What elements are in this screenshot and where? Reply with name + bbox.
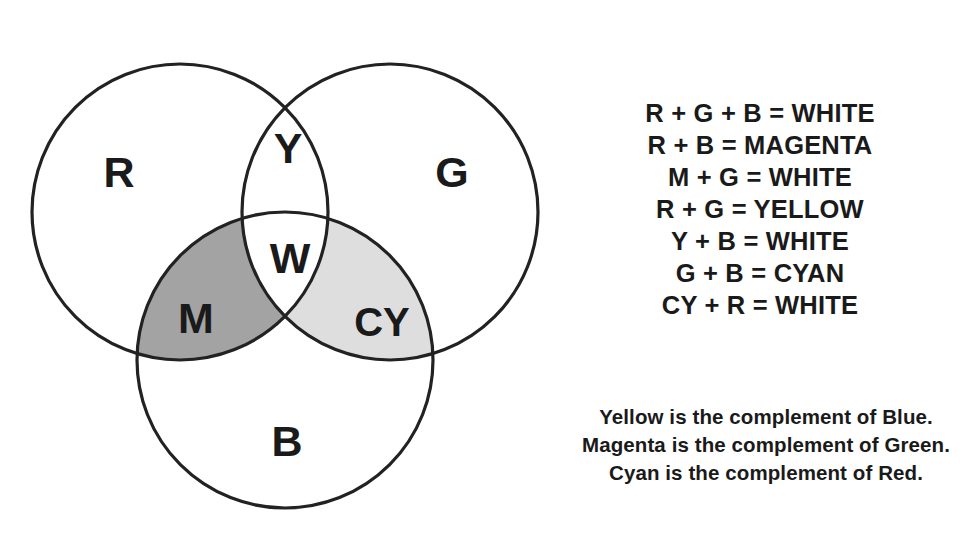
equation-list: R + G + B = WHITE R + B = MAGENTA M + G …: [560, 97, 960, 321]
equation-line: M + G = WHITE: [560, 161, 960, 193]
venn-label-white: W: [270, 237, 311, 280]
venn-label-red: R: [103, 151, 134, 194]
complement-line: Yellow is the complement of Blue.: [560, 403, 972, 431]
venn-diagram: R G Y W M CY B: [0, 0, 560, 558]
complement-line: Magenta is the complement of Green.: [560, 431, 972, 459]
venn-label-cyan: CY: [354, 302, 410, 342]
equation-line: G + B = CYAN: [560, 257, 960, 289]
venn-label-magenta: M: [178, 297, 214, 340]
equation-line: CY + R = WHITE: [560, 289, 960, 321]
equation-line: R + G = YELLOW: [560, 193, 960, 225]
complement-list: Yellow is the complement of Blue. Magent…: [560, 403, 972, 487]
venn-label-blue: B: [271, 420, 302, 463]
venn-label-green: G: [435, 151, 468, 194]
text-panel: R + G + B = WHITE R + B = MAGENTA M + G …: [560, 0, 979, 558]
equation-line: R + B = MAGENTA: [560, 129, 960, 161]
equation-line: Y + B = WHITE: [560, 225, 960, 257]
venn-label-yellow: Y: [274, 127, 303, 170]
equation-line: R + G + B = WHITE: [560, 97, 960, 129]
complement-line: Cyan is the complement of Red.: [560, 459, 972, 487]
